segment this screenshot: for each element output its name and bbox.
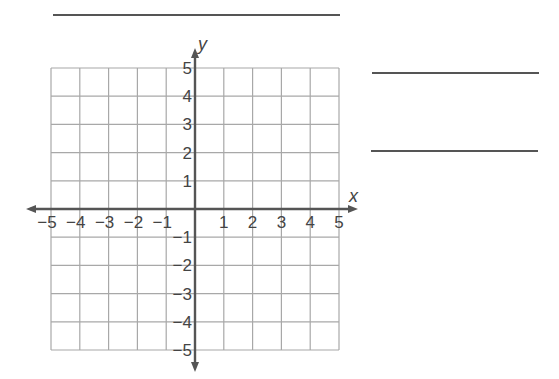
x-tick-label: −5 <box>37 213 56 232</box>
coordinate-plane: x y −5−4−3−2−112345 54321−1−2−3−4−5 <box>0 0 559 379</box>
x-axis-right-arrow-icon <box>348 205 358 213</box>
y-tick-label: −2 <box>173 256 192 275</box>
y-tick-label: 3 <box>183 115 192 134</box>
y-tick-label: 4 <box>183 87 192 106</box>
x-axis-label: x <box>348 186 359 206</box>
y-tick-label: −5 <box>173 341 192 360</box>
y-tick-label: −3 <box>173 285 192 304</box>
x-axis-left-arrow-icon <box>26 205 36 213</box>
y-axis-label: y <box>196 34 208 54</box>
x-axis <box>26 205 358 213</box>
x-tick-label: −1 <box>153 213 172 232</box>
y-tick-label: 1 <box>183 172 192 191</box>
x-tick-label: 1 <box>219 213 228 232</box>
y-tick-label: 5 <box>183 59 192 78</box>
x-tick-label: −2 <box>124 213 143 232</box>
x-tick-label: 2 <box>248 213 257 232</box>
x-tick-label: 3 <box>277 213 286 232</box>
x-tick-label: 4 <box>305 213 314 232</box>
y-tick-label: 2 <box>183 144 192 163</box>
x-tick-label: −4 <box>66 213 85 232</box>
y-axis-down-arrow-icon <box>191 362 199 372</box>
y-tick-label: −4 <box>173 313 192 332</box>
x-tick-label: 5 <box>334 213 343 232</box>
y-tick-label: −1 <box>173 228 192 247</box>
x-tick-label: −3 <box>95 213 114 232</box>
